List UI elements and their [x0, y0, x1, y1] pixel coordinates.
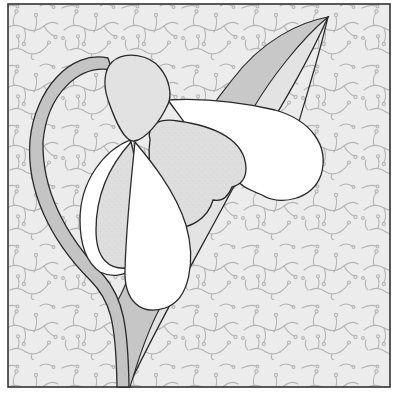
snowdrop-illustration — [0, 0, 399, 393]
